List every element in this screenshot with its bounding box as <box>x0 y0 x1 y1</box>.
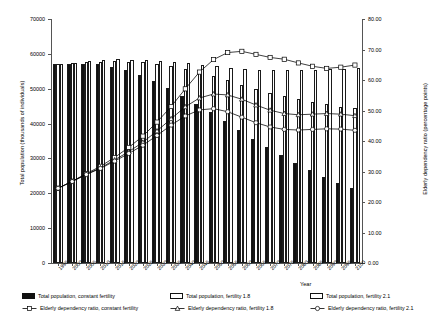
circle-marker <box>268 125 272 129</box>
y-tick-label-left: 0 <box>0 260 45 266</box>
square-marker <box>296 61 300 65</box>
x-tick-mark <box>256 263 257 266</box>
circle-marker <box>70 179 74 183</box>
chart-container: Total population (thousands of individua… <box>0 0 441 325</box>
circle-marker <box>353 128 357 132</box>
y-axis-right-title: Elderly dependency ratio (percentage poi… <box>422 59 428 219</box>
legend-label: Total population, fertility 1.8 <box>186 293 250 299</box>
x-tick-mark <box>284 263 285 266</box>
circle-marker <box>56 186 60 190</box>
y-tick-label-right: 10.00 <box>368 230 382 236</box>
x-tick-mark <box>313 263 314 266</box>
circle-marker <box>211 107 215 111</box>
y-tick-label-left: 40000 <box>0 121 45 127</box>
x-tick-mark <box>199 263 200 266</box>
x-tick-mark <box>228 263 229 266</box>
x-tick-mark <box>58 263 59 266</box>
legend-label: Total population, fertility 2.1 <box>326 293 390 299</box>
legend-bar-swatch <box>22 293 35 299</box>
square-marker <box>155 120 159 124</box>
circle-marker <box>325 127 329 131</box>
x-tick-mark <box>86 263 87 266</box>
legend-line-swatch <box>310 305 325 312</box>
legend-label: Elderly dependency ratio, fertility 1.8 <box>188 305 273 311</box>
circle-marker <box>226 110 230 114</box>
circle-marker <box>98 166 102 170</box>
x-tick-mark <box>327 263 328 266</box>
circle-marker <box>197 108 201 112</box>
x-tick-mark <box>157 263 158 266</box>
circle-marker <box>141 143 145 147</box>
x-tick-mark <box>185 263 186 266</box>
x-tick-mark <box>143 263 144 266</box>
legend-label: Elderly dependency ratio, constant ferti… <box>40 305 138 311</box>
legend-item: Elderly dependency ratio, fertility 2.1 <box>310 305 432 312</box>
square-marker <box>282 57 286 61</box>
y-tick-label-left: 70000 <box>0 16 45 22</box>
legend-line-swatch <box>170 305 185 312</box>
legend-item: Total population, fertility 2.1 <box>310 293 432 299</box>
y-tick-label-right: 40.00 <box>368 138 382 144</box>
legend-line-swatch <box>22 305 37 312</box>
square-marker <box>325 66 329 70</box>
square-marker <box>226 50 230 54</box>
x-tick-mark <box>72 263 73 266</box>
square-marker <box>197 70 201 74</box>
legend-item: Elderly dependency ratio, constant ferti… <box>22 305 170 312</box>
circle-marker <box>296 128 300 132</box>
y-tick-label-right: 70.00 <box>368 47 382 53</box>
circle-marker <box>339 127 343 131</box>
triangle-marker <box>183 104 188 108</box>
legend-item: Total population, fertility 1.8 <box>170 293 310 299</box>
circle-marker <box>127 151 131 155</box>
x-tick-mark <box>242 263 243 266</box>
circle-marker <box>84 172 88 176</box>
x-tick-mark <box>341 263 342 266</box>
x-tick-mark <box>129 263 130 266</box>
y-tick-label-left: 30000 <box>0 155 45 161</box>
circle-marker <box>155 133 159 137</box>
y-axis-left-title: Total population (thousands of individua… <box>19 53 25 213</box>
legend-item: Total population, constant fertility <box>22 293 170 299</box>
line-layer <box>51 19 362 293</box>
circle-marker <box>169 123 173 127</box>
square-marker <box>183 87 187 91</box>
legend-bar-swatch <box>170 293 183 299</box>
line-path <box>58 109 355 189</box>
x-tick-mark <box>270 263 271 266</box>
square-marker <box>268 55 272 59</box>
square-marker <box>240 49 244 53</box>
circle-marker <box>315 306 319 310</box>
circle-marker <box>183 114 187 118</box>
circle-marker <box>240 115 244 119</box>
circle-marker <box>310 127 314 131</box>
circle-marker <box>254 121 258 125</box>
plot-area: 1995200020052010201520202025203020352040… <box>51 19 362 263</box>
y-tick-label-left: 10000 <box>0 225 45 231</box>
y-tick-label-right: 60.00 <box>368 77 382 83</box>
legend-label: Total population, constant fertility <box>38 293 115 299</box>
square-marker <box>353 63 357 67</box>
square-marker <box>254 52 258 56</box>
legend-label: Elderly dependency ratio, fertility 2.1 <box>328 305 413 311</box>
y-tick-label-right: 0.00 <box>368 260 379 266</box>
y-tick-label-left: 50000 <box>0 86 45 92</box>
y-tick-label-right: 80.00 <box>368 16 382 22</box>
square-marker <box>310 64 314 68</box>
triangle-marker <box>254 103 259 107</box>
square-marker <box>141 134 145 138</box>
x-tick-mark <box>355 263 356 266</box>
y-tick-label-left: 20000 <box>0 190 45 196</box>
square-marker <box>339 65 343 69</box>
square-marker <box>169 104 173 108</box>
square-marker <box>27 306 31 310</box>
legend-item: Elderly dependency ratio, fertility 1.8 <box>170 305 310 312</box>
y-axis-right-line <box>362 19 363 263</box>
x-tick-mark <box>171 263 172 266</box>
chart-legend: Total population, constant fertilityTota… <box>22 290 432 314</box>
square-marker <box>211 57 215 61</box>
x-tick-mark <box>298 263 299 266</box>
y-tick-label-right: 50.00 <box>368 108 382 114</box>
y-tick-label-right: 30.00 <box>368 169 382 175</box>
x-tick-mark <box>100 263 101 266</box>
